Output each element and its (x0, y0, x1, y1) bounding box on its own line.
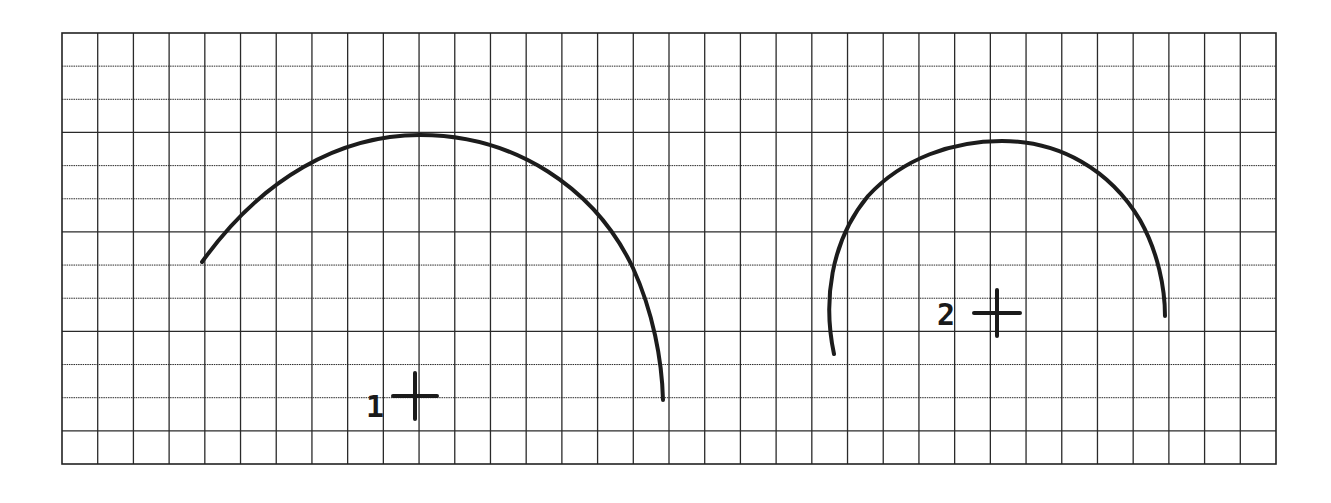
center-1-marker: 1 (366, 373, 437, 424)
center-1-label: 1 (366, 389, 384, 424)
center-2-label: 2 (937, 297, 955, 332)
grid-diagram: 12 (0, 0, 1331, 503)
grid-lines (62, 33, 1276, 464)
arc-1 (202, 135, 663, 400)
arcs (202, 135, 1165, 400)
center-2-marker: 2 (937, 290, 1020, 336)
center-markers: 12 (366, 290, 1020, 424)
